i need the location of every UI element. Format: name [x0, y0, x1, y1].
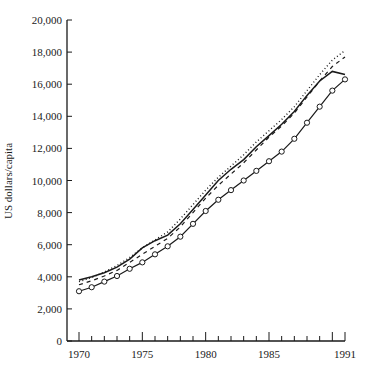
circle-marker-icon	[152, 252, 157, 257]
circle-marker-icon	[190, 221, 195, 226]
circle-marker-icon	[317, 104, 322, 109]
circle-marker-icon	[228, 188, 233, 193]
series-dotted-line	[79, 51, 345, 282]
line-chart: 02,0004,0006,0008,00010,00012,00014,0001…	[0, 0, 370, 375]
x-tick-label: 1980	[195, 348, 218, 360]
y-tick-label: 10,000	[32, 175, 63, 187]
circle-marker-icon	[216, 197, 221, 202]
x-tick-label: 1970	[68, 348, 91, 360]
circle-marker-icon	[203, 208, 208, 213]
circle-marker-icon	[76, 289, 81, 294]
y-tick-label: 20,000	[32, 14, 63, 26]
y-tick-label: 12,000	[32, 142, 63, 154]
circle-marker-icon	[330, 88, 335, 93]
circle-marker-icon	[178, 234, 183, 239]
circle-marker-icon	[241, 178, 246, 183]
y-tick-label: 8,000	[37, 207, 62, 219]
series-layer	[76, 51, 347, 294]
series-circles-line	[79, 79, 345, 291]
y-tick-label: 4,000	[37, 271, 62, 283]
circle-marker-icon	[114, 273, 119, 278]
circle-marker-icon	[127, 266, 132, 271]
series-solid-line	[79, 71, 345, 280]
y-tick-label: 0	[57, 335, 63, 347]
x-axis: 19701975198019851991	[67, 332, 356, 360]
series-dashed-line	[79, 57, 345, 285]
circle-marker-icon	[292, 136, 297, 141]
y-tick-label: 16,000	[32, 78, 63, 90]
x-tick-label: 1985	[258, 348, 281, 360]
circle-marker-icon	[266, 159, 271, 164]
y-tick-label: 14,000	[32, 110, 63, 122]
circle-marker-icon	[304, 120, 309, 125]
circle-marker-icon	[279, 149, 284, 154]
circle-marker-icon	[342, 77, 347, 82]
circle-marker-icon	[89, 285, 94, 290]
x-tick-label: 1975	[131, 348, 154, 360]
circle-marker-icon	[102, 279, 107, 284]
circle-marker-icon	[165, 244, 170, 249]
y-tick-label: 2,000	[37, 303, 62, 315]
circle-marker-icon	[140, 260, 145, 265]
x-tick-label: 1991	[334, 348, 356, 360]
y-tick-label: 6,000	[37, 239, 62, 251]
circle-marker-icon	[254, 168, 259, 173]
y-axis: 02,0004,0006,0008,00010,00012,00014,0001…	[32, 14, 72, 347]
y-tick-label: 18,000	[32, 46, 63, 58]
y-axis-title: US dollars/capita	[2, 143, 14, 219]
